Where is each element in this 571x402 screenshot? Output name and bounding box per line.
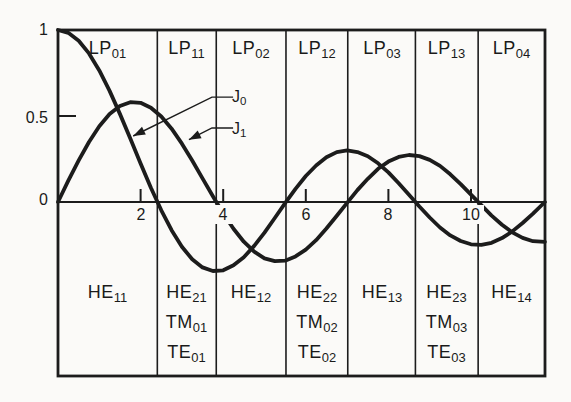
mode-sub: 12 — [257, 290, 271, 305]
mode-label-tm03: TM03 — [415, 307, 478, 337]
lp04-sub: 04 — [516, 46, 530, 61]
mode-label-he23: HE23 — [415, 277, 478, 307]
mode-sub: 11 — [114, 290, 127, 305]
arrowhead-icon-j1 — [189, 131, 202, 140]
mode-column-1: HE11 — [58, 277, 157, 307]
region-label-lp11: LP11 — [157, 35, 216, 63]
lp11-text: LP — [168, 38, 191, 58]
y-tick-label-0p5: 0.5 — [0, 108, 48, 128]
lp03-text: LP — [363, 38, 386, 58]
region-label-lp04: LP04 — [478, 35, 545, 63]
mode-label-he13: HE13 — [348, 277, 416, 307]
lp04-text: LP — [493, 38, 516, 58]
mode-sub: 13 — [388, 290, 402, 305]
mode-sub: 21 — [192, 290, 206, 305]
mode-text: HE — [362, 282, 388, 302]
mode-sub: 02 — [323, 320, 337, 335]
mode-column-5: HE13 — [348, 277, 416, 307]
j0-sub: 0 — [240, 95, 246, 107]
mode-label-te01: TE01 — [157, 337, 216, 367]
lp13-sub: 13 — [451, 46, 465, 61]
lp12-text: LP — [298, 38, 321, 58]
region-label-lp13: LP13 — [415, 35, 478, 63]
mode-label-te03: TE03 — [415, 337, 478, 367]
mode-label-he21: HE21 — [157, 277, 216, 307]
mode-text: HE — [426, 282, 452, 302]
mode-sub: 23 — [452, 290, 466, 305]
mode-text: HE — [491, 282, 517, 302]
legend-j0-label: J0 — [232, 88, 246, 106]
mode-label-he12: HE12 — [216, 277, 286, 307]
lp11-sub: 11 — [191, 46, 204, 61]
mode-text: HE — [88, 282, 114, 302]
y-tick-label-1: 1 — [0, 20, 48, 40]
mode-text: TE — [427, 342, 451, 362]
lp02-sub: 02 — [255, 46, 269, 61]
mode-text: TE — [298, 342, 322, 362]
lp01-text: LP — [89, 38, 112, 58]
mode-label-te02: TE02 — [286, 337, 348, 367]
legend-j1-label: J1 — [232, 120, 246, 138]
curve-j0 — [58, 30, 545, 271]
mode-text: TE — [167, 342, 191, 362]
mode-label-tm01: TM01 — [157, 307, 216, 337]
mode-text: TM — [426, 312, 453, 332]
x-tick-label-8: 8 — [375, 205, 401, 224]
mode-sub: 02 — [322, 350, 336, 365]
x-tick-label-10: 10 — [458, 205, 484, 224]
region-label-lp03: LP03 — [348, 35, 416, 63]
region-label-lp01: LP01 — [58, 35, 157, 63]
y-tick-label-0: 0 — [0, 190, 48, 210]
lp03-sub: 03 — [386, 46, 400, 61]
mode-column-4: HE22TM02TE02 — [286, 277, 348, 367]
mode-text: TM — [166, 312, 193, 332]
x-tick-label-4: 4 — [210, 205, 236, 224]
j1-sub: 1 — [240, 127, 246, 139]
j1-text: J — [232, 120, 240, 137]
lp12-sub: 12 — [321, 46, 335, 61]
mode-sub: 01 — [193, 320, 207, 335]
j0-text: J — [232, 88, 240, 105]
mode-sub: 03 — [451, 350, 465, 365]
mode-label-he11: HE11 — [58, 277, 157, 307]
mode-sub: 01 — [191, 350, 205, 365]
region-label-lp12: LP12 — [286, 35, 348, 63]
mode-column-3: HE12 — [216, 277, 286, 307]
mode-text: HE — [166, 282, 192, 302]
mode-label-he22: HE22 — [286, 277, 348, 307]
mode-label-tm02: TM02 — [286, 307, 348, 337]
mode-text: HE — [231, 282, 257, 302]
mode-column-7: HE14 — [478, 277, 545, 307]
mode-text: HE — [297, 282, 323, 302]
region-label-lp02: LP02 — [216, 35, 286, 63]
mode-label-he14: HE14 — [478, 277, 545, 307]
mode-column-6: HE23TM03TE03 — [415, 277, 478, 367]
mode-sub: 14 — [517, 290, 531, 305]
lp02-text: LP — [232, 38, 255, 58]
mode-sub: 22 — [323, 290, 337, 305]
mode-text: TM — [296, 312, 323, 332]
lp01-sub: 01 — [112, 46, 126, 61]
mode-sub: 03 — [453, 320, 467, 335]
leader-line-j0 — [133, 97, 233, 136]
lp13-text: LP — [428, 38, 451, 58]
arrowhead-icon-j0 — [133, 127, 146, 136]
x-tick-label-2: 2 — [128, 205, 154, 224]
bessel-mode-cutoff-chart: 1 0.5 0 2 4 6 8 10 LP01 LP11 LP02 LP12 L… — [0, 0, 571, 402]
mode-column-2: HE21TM01TE01 — [157, 277, 216, 367]
x-tick-label-6: 6 — [293, 205, 319, 224]
